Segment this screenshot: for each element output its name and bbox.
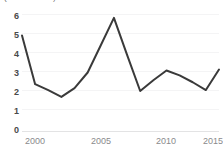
data-series-layer — [0, 0, 223, 155]
line-chart: (in % of GDP) 6 5 4 3 2 1 0 2000 2005 20… — [0, 0, 223, 155]
data-line-series-1 — [22, 18, 219, 97]
